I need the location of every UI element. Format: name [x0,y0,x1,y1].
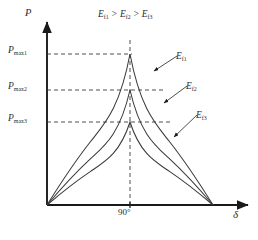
leader-ef1 [154,56,177,71]
power-angle-chart: Ef1 > Ef2 > Ef3 P δ 90° Pmax1 Pmax2 Pmax… [0,0,258,240]
title-term-3: Ef3 [142,9,153,19]
leader-ef2 [164,86,187,103]
y-level-label-pmax2: Pmax2 [8,82,27,93]
title-op-1: > [111,9,117,19]
title-term-2: Ef2 [120,9,131,19]
leader-ef3 [174,115,197,137]
y-level-label-pmax3: Pmax3 [8,114,27,125]
chart-canvas [0,0,258,240]
y-axis-label: P [25,8,31,19]
curve-label-ef3: Ef3 [196,111,207,122]
title-term-1: Ef1 [98,9,109,19]
curve-label-ef1: Ef1 [176,52,187,63]
y-level-label-pmax1: Pmax1 [8,46,27,57]
x-tick-label-90: 90° [118,208,131,217]
chart-title: Ef1 > Ef2 > Ef3 [98,10,153,21]
curve-label-ef2: Ef2 [186,82,197,93]
title-op-2: > [133,9,139,19]
x-axis-label: δ [233,209,238,220]
